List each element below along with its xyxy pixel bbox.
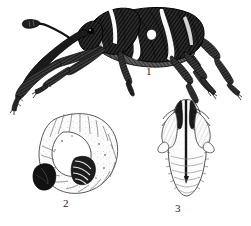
figure-label-1: 1 — [146, 66, 152, 77]
figure-label-2: 2 — [63, 198, 69, 209]
illustration-plate: 1 2 3 — [0, 0, 251, 226]
larva-head-capsule — [33, 164, 56, 190]
plate-artwork — [0, 0, 251, 226]
adult-eye — [88, 28, 94, 34]
figure-label-3: 3 — [175, 203, 181, 214]
larva-ventral-stripes — [71, 156, 95, 184]
